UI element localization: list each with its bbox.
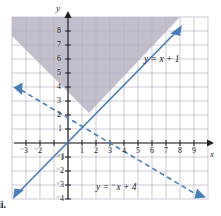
equation-label-dashed-line: y = ⁻x + 4 (96, 183, 137, 193)
equation-label-solid-line: y = x + 1 (144, 55, 180, 65)
x-tick-label--3: ⁻3 (20, 147, 28, 155)
y-tick-label--1: ⁻1 (57, 153, 65, 161)
y-tick-label--4: ⁻4 (56, 195, 64, 203)
y-tick-label-1: 1 (58, 125, 62, 133)
x-tick-label-5: 5 (136, 147, 140, 155)
y-tick-label-6: 6 (57, 55, 61, 63)
equation-dashed-rest: x + 4 (116, 182, 136, 192)
x-tick-label-7: 7 (164, 147, 168, 155)
x-tick-label--2: ⁻2 (34, 147, 42, 155)
item-marker: ii. (0, 200, 6, 210)
x-tick-label-1: 1 (80, 147, 84, 155)
y-tick-label-5: 5 (57, 69, 61, 77)
graph-figure: ⁻3 ⁻2 ⁻1 1 2 3 4 5 6 7 8 9 8 7 6 5 4 3 2… (0, 0, 221, 216)
x-tick-label-6: 6 (150, 147, 154, 155)
y-tick-label-4: 4 (57, 83, 61, 91)
x-tick-label-9: 9 (192, 147, 196, 155)
x-tick-label-4: 4 (122, 147, 126, 155)
equation-dashed-prefix: y = (96, 182, 111, 192)
x-tick-label-3: 3 (108, 147, 112, 155)
y-tick-label-2: 2 (57, 111, 61, 119)
x-tick-label-8: 8 (178, 147, 182, 155)
y-tick-label-7: 7 (57, 41, 61, 49)
x-axis-letter: x (210, 150, 214, 159)
y-axis-letter: y (56, 4, 60, 13)
y-tick-label--3: ⁻3 (56, 181, 64, 189)
y-tick-label--2: ⁻2 (56, 167, 64, 175)
y-tick-label-8: 8 (57, 27, 61, 35)
x-tick-label-2: 2 (94, 147, 98, 155)
y-tick-label-3: 3 (57, 97, 61, 105)
